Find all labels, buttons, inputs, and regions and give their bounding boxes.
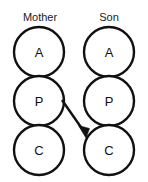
ego-letter-mother-child: C (34, 143, 43, 158)
column-son: Son A P C (84, 11, 134, 175)
ego-letter-mother-adult: A (35, 45, 44, 60)
ego-letter-son-adult: A (105, 45, 114, 60)
ego-letter-mother-parent: P (35, 94, 44, 109)
column-label-mother: Mother (23, 11, 58, 23)
column-label-son: Son (99, 11, 119, 23)
ego-letter-son-parent: P (105, 94, 114, 109)
ego-state-diagram: Mother A P C Son A P C (0, 0, 148, 182)
column-mother: Mother A P C (14, 11, 64, 175)
ego-letter-son-child: C (104, 143, 113, 158)
diagram-canvas: Mother A P C Son A P C (0, 0, 148, 182)
